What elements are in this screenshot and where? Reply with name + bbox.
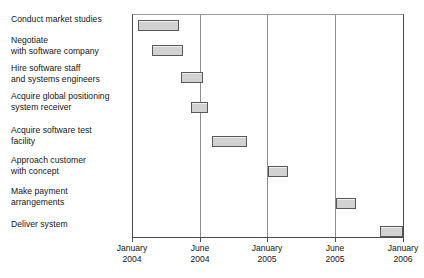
axis-tick-mark-3: [335, 238, 336, 242]
axis-tick-year-1: 2004: [165, 254, 235, 265]
plot-area: [132, 14, 404, 238]
axis-tick-year-0: 2004: [97, 254, 167, 265]
axis-tick-mark-4: [403, 238, 404, 242]
gantt-bar-approach-customer-with-concept: [268, 166, 288, 177]
axis-tick-label-june-2004: June 2004: [165, 243, 235, 264]
gantt-bar-acquire-software-test-facility: [212, 136, 247, 147]
task-label-acquire-global-positioning-receiver: Acquire global positioning system receiv…: [11, 91, 133, 112]
gantt-bar-hire-software-staff: [181, 72, 204, 83]
task-label-column: Conduct market studies Negotiate with so…: [0, 0, 132, 238]
task-label-hire-software-staff: Hire software staff and systems engineer…: [11, 63, 133, 84]
axis-tick-year-2: 2005: [232, 254, 302, 265]
axis-tick-mark-0: [132, 238, 133, 242]
gridline-june-2004: [200, 15, 201, 237]
gantt-bar-conduct-market-studies: [138, 20, 179, 31]
gantt-chart: Conduct market studies Negotiate with so…: [0, 0, 424, 278]
axis-tick-label-january-2004: January 2004: [97, 243, 167, 264]
task-label-negotiate-with-software-company: Negotiate with software company: [11, 35, 133, 56]
axis-tick-label-january-2006: January 2006: [368, 243, 424, 264]
axis-tick-label-january-2005: January 2005: [232, 243, 302, 264]
axis-tick-mark-2: [267, 238, 268, 242]
axis-tick-year-3: 2005: [300, 254, 370, 265]
axis-tick-mark-1: [200, 238, 201, 242]
gantt-bar-make-payment-arrangements: [336, 198, 357, 209]
gantt-bar-deliver-system: [380, 226, 403, 237]
task-label-approach-customer-with-concept: Approach customer with concept: [11, 155, 133, 176]
axis-tick-month-3: June: [300, 243, 370, 254]
axis-tick-month-4: January: [368, 243, 424, 254]
axis-tick-month-2: January: [232, 243, 302, 254]
axis-tick-month-0: January: [97, 243, 167, 254]
axis-tick-label-june-2005: June 2005: [300, 243, 370, 264]
axis-tick-year-4: 2006: [368, 254, 424, 265]
gantt-bar-acquire-global-positioning-receiver: [191, 102, 209, 113]
task-label-acquire-software-test-facility: Acquire software test facility: [11, 125, 133, 146]
gantt-bar-negotiate-with-software-company: [152, 45, 183, 56]
axis-tick-month-1: June: [165, 243, 235, 254]
gridline-january-2005: [267, 15, 268, 237]
task-label-make-payment-arrangements: Make payment arrangements: [11, 186, 133, 207]
task-label-deliver-system: Deliver system: [11, 219, 133, 230]
task-label-conduct-market-studies: Conduct market studies: [11, 14, 133, 25]
x-axis: January 2004 June 2004 January 2005 June…: [0, 238, 424, 278]
